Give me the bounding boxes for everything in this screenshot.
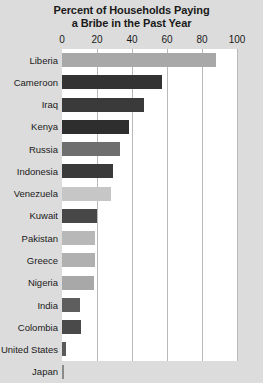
category-label: Liberia <box>29 55 58 66</box>
x-tick-label: 80 <box>196 34 207 46</box>
y-axis-category-labels: LiberiaCameroonIraqKenyaRussiaIndonesiaV… <box>0 49 58 361</box>
bar-row <box>62 205 237 227</box>
category-label: Kuwait <box>29 210 58 221</box>
x-tick-label: 20 <box>91 34 102 46</box>
bar-row <box>62 138 237 160</box>
category-label-row: Iraq <box>0 94 58 116</box>
category-label-row: Nigeria <box>0 272 58 294</box>
bar <box>62 231 95 245</box>
bar <box>62 253 95 267</box>
bar <box>62 298 80 312</box>
category-label-row: Kuwait <box>0 205 58 227</box>
chart-title-line-2: a Bribe in the Past Year <box>0 17 263 30</box>
bar <box>62 75 162 89</box>
bar-row <box>62 338 237 360</box>
bar <box>62 365 64 379</box>
category-label-row: Indonesia <box>0 160 58 182</box>
category-label-row: Colombia <box>0 316 58 338</box>
category-label: United States <box>1 344 58 355</box>
bar <box>62 320 81 334</box>
bar-row <box>62 272 237 294</box>
category-label: India <box>37 300 58 311</box>
bar-row <box>62 316 237 338</box>
plot-area <box>62 49 237 361</box>
category-label-row: Russia <box>0 138 58 160</box>
bar <box>62 276 94 290</box>
x-tick-label: 40 <box>126 34 137 46</box>
bar-row <box>62 71 237 93</box>
category-label-row: Cameroon <box>0 71 58 93</box>
bar <box>62 53 216 67</box>
chart-title-line-1: Percent of Households Paying <box>53 4 209 16</box>
category-label: Indonesia <box>17 166 58 177</box>
x-tick-label: 0 <box>59 34 65 46</box>
category-label: Kenya <box>31 121 58 132</box>
category-label: Russia <box>29 144 58 155</box>
bar-row <box>62 160 237 182</box>
bar-row <box>62 183 237 205</box>
bar-rows <box>62 49 237 361</box>
bar-row <box>62 116 237 138</box>
category-label-row: Pakistan <box>0 227 58 249</box>
category-label: Colombia <box>18 322 58 333</box>
category-label: Iraq <box>42 99 58 110</box>
category-label: Greece <box>27 255 58 266</box>
bar-row <box>62 294 237 316</box>
x-tick-label: 60 <box>161 34 172 46</box>
category-label-row: Greece <box>0 249 58 271</box>
bar-row <box>62 249 237 271</box>
category-label: Venezuela <box>14 188 58 199</box>
bar-row <box>62 227 237 249</box>
category-label-row: Venezuela <box>0 183 58 205</box>
category-label-row: Liberia <box>0 49 58 71</box>
chart-title: Percent of Households Paying a Bribe in … <box>0 4 263 30</box>
bar-row <box>62 94 237 116</box>
bar <box>62 342 66 356</box>
bar-row <box>62 49 237 71</box>
category-label-row: Japan <box>0 361 58 383</box>
bar <box>62 187 111 201</box>
category-label-row: Kenya <box>0 116 58 138</box>
bar <box>62 142 120 156</box>
bar <box>62 120 129 134</box>
gridline <box>237 49 238 361</box>
category-label: Nigeria <box>28 277 58 288</box>
category-label: Pakistan <box>22 233 58 244</box>
category-label-row: United States <box>0 338 58 360</box>
x-axis-tick-labels: 020406080100 <box>0 34 263 47</box>
category-label: Cameroon <box>14 77 58 88</box>
bar <box>62 164 113 178</box>
bar <box>62 98 144 112</box>
bar <box>62 209 97 223</box>
category-label: Japan <box>32 366 58 377</box>
x-tick-label: 100 <box>229 34 246 46</box>
bar-row <box>62 361 237 383</box>
category-label-row: India <box>0 294 58 316</box>
